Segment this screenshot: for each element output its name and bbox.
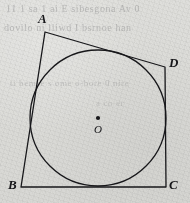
vertex-label-d: D xyxy=(169,56,178,69)
center-point-dot xyxy=(96,116,100,120)
vertex-label-c: C xyxy=(169,178,178,191)
center-label-o: O xyxy=(94,124,102,135)
geometry-diagram-svg xyxy=(0,0,190,203)
quadrilateral-abcd xyxy=(21,32,166,187)
vertex-label-b: B xyxy=(8,178,17,191)
vertex-label-a: A xyxy=(38,12,47,25)
geometry-figure: 11 1 sa 1 ai E sibesgona Av 0 dovilo ni … xyxy=(0,0,190,203)
